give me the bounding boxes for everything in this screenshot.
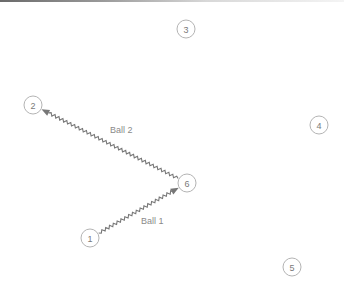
diagram-canvas: 123456 Ball 1Ball 2: [0, 0, 344, 285]
wavy-line: [99, 191, 172, 234]
node-6[interactable]: 6: [178, 174, 196, 192]
arrowhead-icon: [170, 188, 179, 195]
edge-label-ball2: Ball 2: [110, 125, 133, 135]
node-label: 3: [183, 25, 188, 35]
node-3[interactable]: 3: [177, 20, 195, 38]
arrow-ball1: [99, 188, 179, 234]
node-label: 1: [87, 234, 92, 244]
arrowhead-icon: [41, 109, 50, 115]
node-label: 2: [30, 101, 35, 111]
node-1[interactable]: 1: [81, 229, 99, 247]
wavy-line: [49, 113, 178, 179]
node-label: 6: [184, 179, 189, 189]
node-4[interactable]: 4: [310, 116, 328, 134]
node-label: 4: [316, 121, 321, 131]
node-label: 5: [289, 263, 294, 273]
node-5[interactable]: 5: [283, 258, 301, 276]
node-2[interactable]: 2: [24, 96, 42, 114]
edge-label-ball1: Ball 1: [141, 216, 164, 226]
arrow-ball2: [41, 109, 178, 178]
